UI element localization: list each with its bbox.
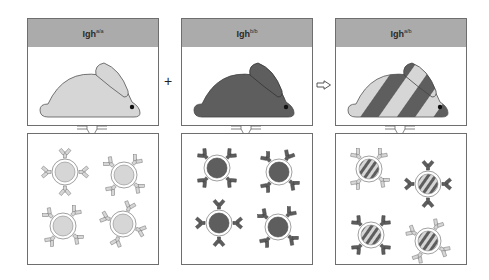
panel-igh-aa: Igha/a [27,18,159,265]
panel-igh-ab: Igha/b [335,18,467,265]
panel-igh-bb: Ighb/b [181,18,313,265]
rabbit-box-bb [181,47,313,126]
genotype-label-bb: Ighb/b [236,28,257,39]
rabbit-box-aa [27,47,159,126]
rabbit-striped-icon [336,47,468,126]
panel-header-aa: Igha/a [27,18,159,48]
rabbit-box-ab [335,47,467,126]
genotype-label-aa: Igha/a [82,28,103,39]
rabbit-light-icon [28,47,160,126]
rabbit-dark-icon [182,47,314,126]
b-cells-striped [336,134,468,266]
panel-header-ab: Igha/b [335,18,467,48]
right-arrow-icon [316,80,332,90]
plus-sign: + [164,74,172,88]
cell-box-bb [181,133,313,265]
b-cells-dark [182,134,314,266]
genotype-label-ab: Igha/b [390,28,411,39]
b-cells-light [28,134,160,266]
cell-box-ab [335,133,467,265]
panel-header-bb: Ighb/b [181,18,313,48]
cell-box-aa [27,133,159,265]
